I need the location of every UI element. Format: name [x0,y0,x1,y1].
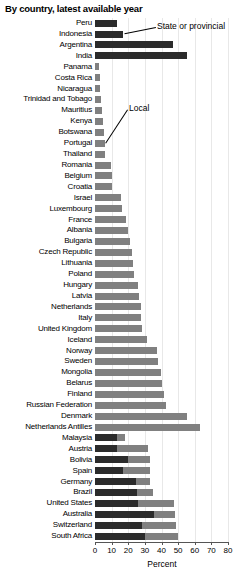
bar-row: Panama [0,62,244,72]
stacked-bar [95,74,100,81]
stacked-bar [95,347,157,354]
bar-segment-state-or-provincial [95,52,187,59]
stacked-bar [95,325,142,332]
bar-row: Mongolia [0,367,244,377]
bar-row: Botswana [0,127,244,137]
bar-segment-local [117,445,149,452]
category-label: United Kingdom [38,324,92,334]
bar-segment-local [95,424,200,431]
bar-segment-local [95,260,133,267]
x-tick-10 [112,542,113,545]
bar-segment-local [95,303,141,310]
stacked-bar [95,227,128,234]
bar-row: Costa Rica [0,73,244,83]
bar-segment-local [95,107,102,114]
category-label: Malaysia [62,433,92,443]
bar-row: Austria [0,444,244,454]
bar-segment-local [95,205,122,212]
category-label: Indonesia [59,29,92,39]
stacked-bar [95,336,147,343]
x-tick-20 [128,542,129,545]
x-tick-70 [211,542,212,545]
stacked-bar [95,85,100,92]
category-label: Albania [67,225,92,235]
category-label: Germany [61,477,93,487]
bar-row: Switzerland [0,520,244,530]
category-label: Australia [63,509,92,519]
bar-row: Iceland [0,335,244,345]
bar-segment-local [95,271,134,278]
bar-segment-local [95,172,112,179]
bar-segment-local [154,511,175,518]
bar-segment-local [95,183,112,190]
category-label: Poland [68,269,92,279]
stacked-bar [95,314,141,321]
category-label: Austria [69,444,93,454]
stacked-bar [95,238,130,245]
bar-row: Belgium [0,171,244,181]
stacked-bar [95,249,132,256]
bar-segment-local [138,500,174,507]
category-label: Portugal [64,138,92,148]
category-label: Mauritius [61,105,92,115]
stacked-bar [95,52,187,59]
bar-segment-local [95,282,138,289]
stacked-bar [95,162,111,169]
bar-segment-local [95,391,164,398]
bar-row: Netherlands Antilles [0,422,244,432]
bar-segment-local [95,162,111,169]
category-label: Belgium [64,171,92,181]
stacked-bar [95,205,122,212]
bar-segment-state-or-provincial [95,445,117,452]
category-label: Panama [63,62,92,72]
bar-row: South Africa [0,531,244,541]
bar-row: Romania [0,160,244,170]
category-label: Switzerland [53,520,92,530]
bar-row: Israel [0,193,244,203]
category-label: Denmark [61,411,92,421]
bar-segment-local [95,227,128,234]
category-label: Brazil [73,487,92,497]
stacked-bar [95,31,123,38]
x-tick-30 [145,542,146,545]
bar-row: Argentina [0,40,244,50]
stacked-bar [95,511,175,518]
bar-row: Nicaragua [0,84,244,94]
stacked-bar [95,260,133,267]
stacked-bar [95,478,150,485]
chart-container: By country, latest available year PeruIn… [0,0,244,586]
bar-segment-local [95,74,100,81]
bar-rows: PeruIndonesiaArgentinaIndiaPanamaCosta R… [0,18,244,542]
bar-segment-local [95,129,104,136]
bar-row: Lithuania [0,258,244,268]
stacked-bar [95,96,101,103]
bar-row: Albania [0,225,244,235]
bar-segment-local [95,380,162,387]
bar-segment-state-or-provincial [95,489,137,496]
stacked-bar [95,402,166,409]
bar-row: Portugal [0,138,244,148]
bar-row: Trinidad and Tobago [0,94,244,104]
category-label: Bulgaria [64,236,92,246]
bar-row: Latvia [0,291,244,301]
bar-row: Mauritius [0,105,244,115]
category-label: Botswana [58,127,92,137]
bar-segment-local [95,293,139,300]
bar-segment-local [95,238,130,245]
stacked-bar [95,118,103,125]
category-label: Luxembourg [50,204,92,214]
stacked-bar [95,522,176,529]
bar-segment-local [123,467,150,474]
bar-row: Bolivia [0,455,244,465]
bar-row: Brazil [0,487,244,497]
bar-segment-state-or-provincial [95,31,123,38]
bar-segment-state-or-provincial [95,511,154,518]
stacked-bar [95,107,102,114]
stacked-bar [95,424,200,431]
bar-row: Norway [0,346,244,356]
bar-row: Luxembourg [0,204,244,214]
category-label: France [68,215,92,225]
x-tick-40 [162,542,163,545]
stacked-bar [95,129,104,136]
stacked-bar [95,293,139,300]
